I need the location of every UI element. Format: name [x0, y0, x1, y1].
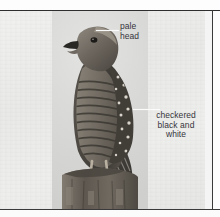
rule-right	[212, 10, 213, 210]
figure-page: pale head checkered black and white	[0, 0, 220, 217]
rule-top	[0, 10, 220, 11]
right-margin-gutter	[205, 11, 212, 209]
page-bleed-area	[0, 210, 220, 217]
annotation-pale-head: pale head	[120, 22, 139, 41]
wooden-post	[54, 165, 146, 209]
leader-line-pale-head	[96, 30, 119, 31]
annotation-checkered-black-and-white: checkered black and white	[148, 111, 204, 140]
